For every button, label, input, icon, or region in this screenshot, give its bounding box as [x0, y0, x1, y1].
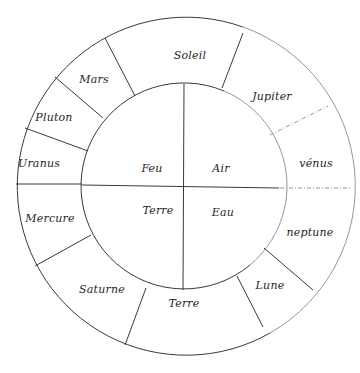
segment-label-pluton: Pluton [35, 111, 72, 124]
segment-label-jupiter: Jupiter [252, 90, 292, 103]
divider-jupiter-venus [270, 106, 328, 135]
quadrant-label-terre: Terre [142, 204, 173, 217]
inner-circle-right-arc [224, 91, 287, 265]
divider-saturne-mercure [35, 235, 91, 266]
quadrant-label-feu: Feu [141, 162, 162, 175]
segment-label-mars: Mars [79, 73, 109, 86]
divider-uranus-pluton [25, 128, 88, 151]
segment-label-mercure: Mercure [25, 212, 74, 225]
segment-label-venus: vénus [299, 157, 333, 170]
segment-label-soleil: Soleil [174, 49, 206, 62]
segment-label-lune: Lune [256, 279, 285, 292]
quadrant-label-air: Air [212, 162, 229, 175]
astrological-wheel-diagram: Feu Air Terre Eau Soleil Jupiter vénus n… [0, 0, 360, 373]
divider-soleil-jupiter [222, 33, 243, 88]
segment-label-neptune: neptune [286, 226, 333, 239]
divider-soleil-mars [105, 38, 135, 96]
segment-label-uranus: Uranus [18, 157, 60, 170]
segment-label-terre: Terre [168, 297, 199, 310]
divider-terre-saturne [125, 288, 146, 345]
cross-horizontal-line [82, 185, 279, 188]
segment-label-saturne: Saturne [79, 283, 125, 296]
quadrant-label-eau: Eau [212, 206, 234, 219]
